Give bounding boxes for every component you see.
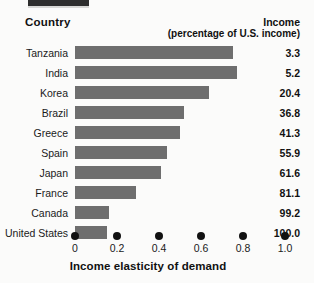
x-axis-tick-dot xyxy=(113,232,121,240)
bar-track xyxy=(75,66,285,79)
bar-row-income-value: 5.2 xyxy=(285,67,300,79)
bar-row-country-label: France xyxy=(0,187,68,199)
x-axis-tick-label: 0 xyxy=(57,242,93,254)
bar-row-country-label: Japan xyxy=(0,167,68,179)
bar-row: France81.1 xyxy=(0,184,314,204)
x-axis-tick-label: 0.4 xyxy=(141,242,177,254)
x-axis-tick-dot xyxy=(155,232,163,240)
x-axis-tick-label: 0.6 xyxy=(183,242,219,254)
bar-track xyxy=(75,166,285,179)
bar xyxy=(75,126,180,139)
bar-row-country-label: Brazil xyxy=(0,107,68,119)
bar-row: Tanzania3.3 xyxy=(0,44,314,64)
bar-row: India5.2 xyxy=(0,64,314,84)
bar-row-income-value: 41.3 xyxy=(280,127,300,139)
bar-row: Canada99.2 xyxy=(0,204,314,224)
bar-row: Korea20.4 xyxy=(0,84,314,104)
bar xyxy=(75,46,233,59)
bar xyxy=(75,166,161,179)
chart-header: Country Income (percentage of U.S. incom… xyxy=(0,16,314,44)
bar-rows-container: Tanzania3.3India5.2Korea20.4Brazil36.8Gr… xyxy=(0,44,314,244)
bar-row-income-value: 36.8 xyxy=(280,107,300,119)
bar xyxy=(75,186,136,199)
bar-track xyxy=(75,106,285,119)
x-axis-tick-dot xyxy=(71,232,79,240)
bar-row-income-value: 81.1 xyxy=(280,187,300,199)
bar-track xyxy=(75,186,285,199)
x-axis: 00.20.40.60.81.0 xyxy=(0,232,314,258)
income-elasticity-bar-chart: Country Income (percentage of U.S. incom… xyxy=(0,0,314,283)
page-artifact-shadow xyxy=(28,6,89,8)
x-axis-tick-dot xyxy=(239,232,247,240)
bar xyxy=(75,66,237,79)
bar xyxy=(75,86,209,99)
bar-row-income-value: 20.4 xyxy=(280,87,300,99)
x-axis-tick-label: 0.2 xyxy=(99,242,135,254)
bar-row-country-label: Greece xyxy=(0,127,68,139)
bar-row-income-value: 99.2 xyxy=(280,207,300,219)
bar-row: Greece41.3 xyxy=(0,124,314,144)
bar-row-country-label: Canada xyxy=(0,207,68,219)
bar-row-income-value: 3.3 xyxy=(285,47,300,59)
bar-track xyxy=(75,146,285,159)
bar-track xyxy=(75,86,285,99)
bar xyxy=(75,146,167,159)
bar-row-country-label: Tanzania xyxy=(0,47,68,59)
bar xyxy=(75,206,109,219)
bar-row-country-label: India xyxy=(0,67,68,79)
x-axis-tick-label: 1.0 xyxy=(267,242,303,254)
bar-row-country-label: Spain xyxy=(0,147,68,159)
x-axis-title: Income elasticity of demand xyxy=(0,260,296,272)
bar-row-income-value: 61.6 xyxy=(280,167,300,179)
bar xyxy=(75,106,184,119)
bar-row: Brazil36.8 xyxy=(0,104,314,124)
country-column-header: Country xyxy=(25,16,70,28)
income-column-subheader: (percentage of U.S. income) xyxy=(168,28,300,39)
bar-row: Japan61.6 xyxy=(0,164,314,184)
x-axis-tick-dot xyxy=(197,232,205,240)
income-column-header: Income xyxy=(263,16,300,28)
x-axis-tick-dot xyxy=(281,232,289,240)
bar-row: Spain55.9 xyxy=(0,144,314,164)
bar-track xyxy=(75,126,285,139)
bar-row-country-label: Korea xyxy=(0,87,68,99)
bar-track xyxy=(75,206,285,219)
bar-track xyxy=(75,46,285,59)
x-axis-tick-label: 0.8 xyxy=(225,242,261,254)
bar-row-income-value: 55.9 xyxy=(280,147,300,159)
